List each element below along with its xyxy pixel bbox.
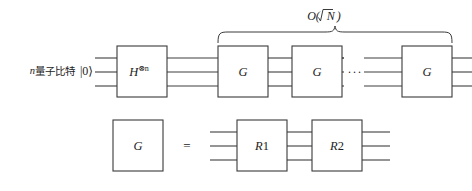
brace-label-text: O(N)	[307, 9, 341, 23]
brace-label-group: O(N)	[307, 9, 341, 23]
gate-label-grover-1: G	[238, 65, 247, 79]
qubit-ket-zero: |0⟩	[80, 64, 93, 78]
brace-label-open: O(	[307, 9, 321, 23]
gate-sequence-ellipsis: ···	[348, 65, 363, 79]
quantum-circuit-figure: H⊗n G G G ··· n量子比特|0⟩ O(N) G =	[0, 0, 472, 191]
gate-label-grover-2: G	[312, 65, 321, 79]
qubit-input-label: n量子比特|0⟩	[30, 64, 93, 78]
circuit-canvas: H⊗n G G G ··· n量子比特|0⟩ O(N) G =	[0, 0, 472, 191]
gate-label-grover-def: G	[133, 139, 142, 153]
gate-label-r2: R2	[329, 139, 344, 153]
gate-label-grover-last: G	[422, 65, 431, 79]
brace-label-radicand: N	[326, 9, 336, 23]
gate-label-r1: R1	[254, 139, 269, 153]
gate-label-r2-number: 2	[338, 139, 344, 153]
qubit-label-chinese: 量子比特	[35, 65, 76, 77]
grover-repetition-brace	[218, 26, 452, 43]
gate-label-hadamard-superscript: ⊗n	[138, 64, 149, 73]
equals-sign: =	[183, 138, 190, 153]
brace-label-close: )	[336, 9, 341, 23]
gate-label-r1-number: 1	[263, 139, 269, 153]
